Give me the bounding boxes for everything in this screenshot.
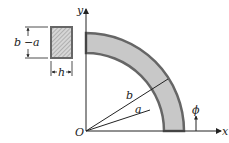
angle-label: ϕ bbox=[192, 104, 200, 117]
quarter-ring bbox=[86, 33, 184, 131]
y-axis-label: y bbox=[76, 4, 84, 17]
section-height-label-b: b bbox=[14, 36, 21, 49]
inner-radius-label: a bbox=[135, 103, 142, 116]
cross-section bbox=[51, 27, 72, 58]
section-width-label: h bbox=[58, 66, 65, 79]
outer-radius-line bbox=[86, 79, 168, 131]
section-height-label-a: a bbox=[33, 36, 40, 49]
x-axis-label: x bbox=[222, 125, 229, 138]
curved-bar-diagram: y x O b a ϕ b − a h bbox=[0, 0, 229, 143]
section-height-label-dash: − bbox=[24, 36, 33, 49]
outer-radius-label: b bbox=[126, 89, 133, 102]
origin-label: O bbox=[75, 126, 84, 139]
